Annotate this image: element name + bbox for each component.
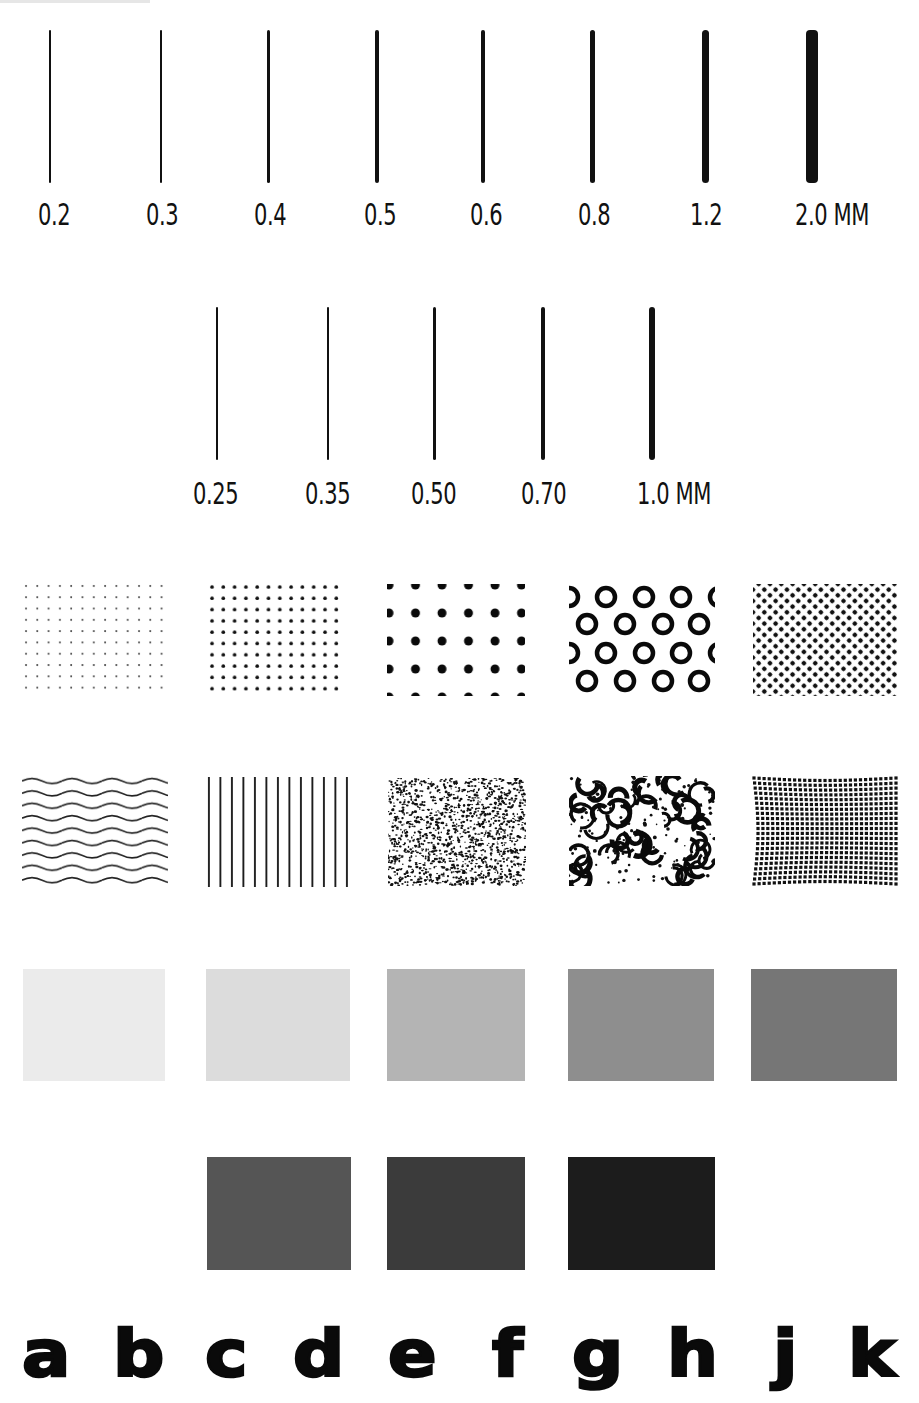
- line-weight-label: 0.50: [411, 479, 456, 509]
- line-sample: [806, 30, 818, 183]
- line-sample: [590, 30, 595, 183]
- pattern-vertical-lines: [205, 777, 351, 887]
- line-sample: [49, 30, 51, 183]
- pattern-ring-pattern: [569, 584, 715, 696]
- line-sample: [160, 30, 162, 183]
- swatch-gray-50: [568, 969, 714, 1081]
- swatch-gray-20: [206, 969, 350, 1081]
- letter-a: a: [22, 1322, 70, 1386]
- swatch-gray-35: [387, 969, 525, 1081]
- line-weight-label: 1.2: [690, 200, 722, 230]
- line-weight-label: 2.0 MM: [795, 200, 869, 230]
- pattern-fine-dot-grid: [24, 584, 166, 696]
- line-weight-label: 0.3: [146, 200, 178, 230]
- line-weight-label: 0.5: [364, 200, 396, 230]
- letter-e: e: [388, 1322, 437, 1386]
- letter-d: d: [293, 1322, 344, 1386]
- line-sample: [327, 307, 329, 460]
- pattern-medium-dot-grid: [209, 584, 343, 696]
- swatch-gray-90: [568, 1157, 715, 1270]
- line-sample: [267, 30, 270, 183]
- letter-b: b: [113, 1322, 164, 1386]
- swatch-gray-70: [207, 1157, 351, 1270]
- top-edge-artifact: [0, 0, 150, 3]
- line-weight-label: 0.8: [578, 200, 610, 230]
- line-weight-label: 1.0 MM: [637, 479, 711, 509]
- line-weight-label: 0.2: [38, 200, 70, 230]
- line-weight-label: 0.4: [254, 200, 286, 230]
- line-sample: [649, 307, 655, 460]
- pattern-dense-halftone: [753, 584, 897, 696]
- pattern-warped-grid: [752, 776, 898, 886]
- swatch-gray-10: [23, 969, 165, 1081]
- pattern-large-dot-grid: [387, 584, 525, 696]
- line-weight-label: 0.25: [193, 479, 238, 509]
- pattern-coarse-mottle: [569, 776, 715, 886]
- line-sample: [702, 30, 709, 183]
- letter-c: c: [205, 1322, 247, 1386]
- letter-j: j: [773, 1322, 798, 1386]
- line-weight-label: 0.35: [305, 479, 350, 509]
- letter-k: k: [848, 1322, 896, 1386]
- line-sample: [541, 307, 546, 460]
- line-sample: [433, 307, 436, 460]
- letter-g: g: [572, 1322, 623, 1386]
- line-sample: [375, 30, 379, 183]
- letter-h: h: [667, 1322, 718, 1386]
- swatch-gray-80: [387, 1157, 525, 1270]
- line-sample: [481, 30, 485, 183]
- pattern-stipple: [388, 778, 526, 886]
- letter-f: f: [492, 1322, 523, 1386]
- line-weight-label: 0.70: [521, 479, 566, 509]
- line-weight-label: 0.6: [470, 200, 502, 230]
- pattern-wavy-lines: [22, 775, 168, 887]
- line-sample: [216, 307, 217, 460]
- swatch-gray-60: [751, 969, 897, 1081]
